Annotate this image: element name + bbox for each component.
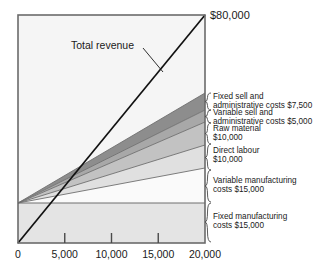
legend-label-fixed-manufacturing-line2: costs $15,000 xyxy=(213,221,264,230)
cost-volume-profit-chart: Total revenue $80,000 0 5,000 10,000 15,… xyxy=(0,0,332,270)
x-tick-label-15000: 15,000 xyxy=(142,248,174,260)
y-axis-top-value-label: $80,000 xyxy=(210,9,250,21)
legend-brace-raw-material xyxy=(205,123,211,144)
legend-label-variable-manufacturing-line1: Variable manufacturing xyxy=(213,176,297,185)
x-tick-label-20000: 20,000 xyxy=(189,248,221,260)
legend-label-direct-labour-line2: $10,000 xyxy=(213,155,243,164)
legend-brace-variable-manufacturing xyxy=(205,170,211,202)
legend-label-raw-material-line1: Raw material xyxy=(213,124,261,133)
legend-brace-fixed-sell-admin xyxy=(205,93,211,110)
x-tick-label-10000: 10,000 xyxy=(95,248,127,260)
total-revenue-annotation-label: Total revenue xyxy=(71,39,134,51)
x-tick-label-0: 0 xyxy=(15,248,21,260)
legend-label-raw-material-line2: $10,000 xyxy=(213,133,243,142)
legend-brace-direct-labour xyxy=(205,144,211,170)
x-tick-label-5000: 5,000 xyxy=(52,248,78,260)
legend-brace-variable-sell-admin xyxy=(205,110,211,123)
legend-label-variable-manufacturing-line2: costs $15,000 xyxy=(213,185,264,194)
legend-label-direct-labour-line1: Direct labour xyxy=(213,146,260,155)
legend-label-fixed-sell-admin-line1: Fixed sell and xyxy=(213,92,264,101)
legend-brace-fixed-manufacturing xyxy=(205,203,211,242)
legend-label-fixed-manufacturing-line1: Fixed manufacturing xyxy=(213,212,288,221)
chart-svg: Total revenue $80,000 0 5,000 10,000 15,… xyxy=(0,0,332,270)
legend-label-variable-sell-admin-line1: Variable sell and xyxy=(213,108,273,117)
